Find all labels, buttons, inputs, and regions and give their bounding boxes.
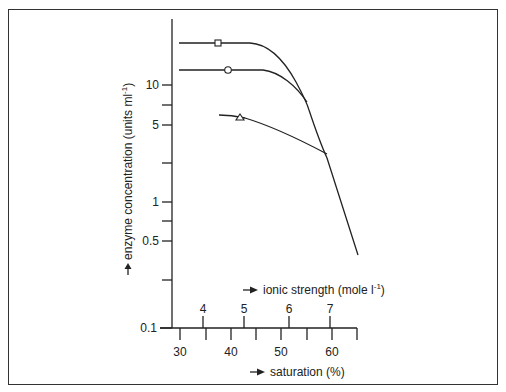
svg-text:saturation (%): saturation (%) bbox=[270, 365, 345, 379]
series-circle-curve bbox=[179, 70, 307, 102]
svg-text:30: 30 bbox=[173, 345, 187, 359]
square-marker-icon bbox=[215, 40, 221, 46]
x-tick-labels-ionic: 4 5 6 7 bbox=[200, 302, 334, 316]
y-ticks bbox=[160, 85, 172, 328]
svg-text:40: 40 bbox=[224, 345, 238, 359]
svg-text:5: 5 bbox=[152, 118, 159, 132]
svg-text:50: 50 bbox=[274, 345, 288, 359]
chart: 10 5 1 0.5 0.1 enzyme concentration (uni… bbox=[0, 0, 506, 392]
series-square-curve bbox=[179, 43, 358, 255]
svg-text:5: 5 bbox=[241, 302, 248, 316]
svg-text:60: 60 bbox=[325, 345, 339, 359]
svg-text:4: 4 bbox=[200, 302, 207, 316]
svg-text:10: 10 bbox=[146, 78, 160, 92]
svg-text:ionic strength (mole l-1): ionic strength (mole l-1) bbox=[263, 282, 385, 297]
svg-text:7: 7 bbox=[327, 302, 334, 316]
arrow-icon bbox=[257, 369, 265, 376]
svg-text:0.5: 0.5 bbox=[142, 234, 159, 248]
x-ticks-saturation bbox=[180, 328, 357, 340]
y-axis-label: enzyme concentration (units ml-1) bbox=[120, 83, 135, 275]
arrow-icon bbox=[250, 287, 258, 294]
y-tick-labels: 10 5 1 0.5 0.1 bbox=[140, 78, 159, 335]
x-tick-labels-saturation: 30 40 50 60 bbox=[173, 345, 339, 359]
svg-text:6: 6 bbox=[286, 302, 293, 316]
x-ticks-ionic bbox=[203, 316, 330, 328]
circle-marker-icon bbox=[225, 67, 232, 74]
svg-text:0.1: 0.1 bbox=[140, 321, 157, 335]
series-triangle-curve bbox=[219, 115, 327, 154]
svg-text:enzyme concentration (units: enzyme concentration (units ml-1) bbox=[120, 83, 135, 260]
svg-text:1: 1 bbox=[152, 195, 159, 209]
x2-axis-label: ionic strength (mole l-1) bbox=[243, 282, 385, 297]
arrow-icon bbox=[125, 263, 132, 269]
x-axis-label: saturation (%) bbox=[250, 365, 345, 379]
